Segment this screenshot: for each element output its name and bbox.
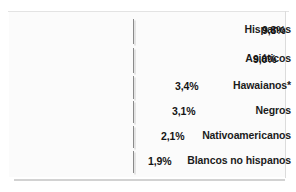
- bar-value-label: 1,9%: [148, 155, 172, 167]
- bar-category-label: Blancos no hispanos: [170, 154, 296, 166]
- bar-fill: [133, 76, 134, 99]
- bar-value-label: 9,0%: [253, 53, 277, 65]
- bar-chart-figure: Hispanos 9,8% Asiáticos 9,0% Hawaianos* …: [0, 0, 296, 192]
- bar-track: [133, 126, 157, 148]
- frame-top-divider: [8, 11, 289, 12]
- bar-track: [133, 19, 259, 44]
- bar-value-label: 3,4%: [175, 80, 199, 92]
- frame-bottom-divider: [14, 179, 285, 181]
- bar-fill: [133, 19, 134, 44]
- bar-fill: [133, 101, 134, 123]
- bar-fill: [133, 151, 134, 173]
- bar-value-label: 9,8%: [262, 24, 286, 36]
- bar-track: [133, 101, 168, 123]
- bar-track: [133, 151, 144, 173]
- bar-value-label: 2,1%: [161, 130, 185, 142]
- bar-track: [133, 48, 250, 73]
- bar-track: [133, 76, 171, 99]
- bar-fill: [133, 126, 134, 148]
- bar-category-label: Nativoamericanos: [170, 129, 296, 141]
- bar-value-label: 3,1%: [172, 105, 196, 117]
- frame-right-divider: [285, 11, 286, 178]
- bar-fill: [133, 48, 134, 73]
